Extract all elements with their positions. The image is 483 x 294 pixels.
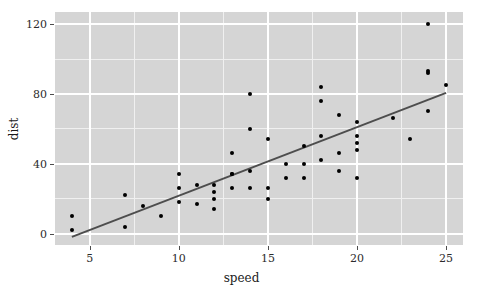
x-tick-label: 25 <box>439 252 453 265</box>
scatter-point <box>212 183 216 187</box>
scatter-point <box>319 85 323 89</box>
x-tick-label: 10 <box>172 252 186 265</box>
scatter-point <box>302 176 306 180</box>
scatter-point <box>177 172 181 176</box>
scatter-point <box>355 134 359 138</box>
plot-panel <box>55 12 463 245</box>
scatter-point <box>337 169 341 173</box>
gridline-horizontal-minor <box>55 198 463 199</box>
gridline-vertical-major <box>89 12 91 245</box>
scatter-point <box>266 186 270 190</box>
scatter-point <box>355 141 359 145</box>
scatter-point <box>123 225 127 229</box>
y-tick-label: 120 <box>26 18 47 31</box>
gridline-horizontal-major <box>55 93 463 95</box>
x-tick-label: 20 <box>350 252 364 265</box>
scatter-point <box>212 207 216 211</box>
scatter-point <box>177 186 181 190</box>
scatter-point <box>212 197 216 201</box>
x-tick-mark <box>90 246 91 250</box>
gridline-horizontal-minor <box>55 59 463 60</box>
x-tick-label: 15 <box>261 252 275 265</box>
scatter-point <box>266 137 270 141</box>
scatter-point <box>266 197 270 201</box>
scatter-point <box>177 200 181 204</box>
scatter-point <box>426 69 430 73</box>
scatter-point <box>426 109 430 113</box>
chart-figure: 510152025 04080120 speed dist <box>0 0 483 294</box>
scatter-point <box>230 151 234 155</box>
scatter-point <box>319 134 323 138</box>
scatter-point <box>426 22 430 26</box>
scatter-point <box>319 158 323 162</box>
scatter-point <box>408 137 412 141</box>
scatter-point <box>195 183 199 187</box>
scatter-point <box>230 186 234 190</box>
scatter-point <box>195 202 199 206</box>
scatter-point <box>70 228 74 232</box>
scatter-point <box>337 151 341 155</box>
scatter-point <box>355 120 359 124</box>
gridline-horizontal-major <box>55 23 463 25</box>
y-tick-mark <box>50 24 54 25</box>
gridline-horizontal-minor <box>55 128 463 129</box>
y-tick-label: 80 <box>33 88 47 101</box>
scatter-point <box>123 193 127 197</box>
y-tick-label: 40 <box>33 157 47 170</box>
y-tick-mark <box>50 94 54 95</box>
x-axis-title: speed <box>0 271 483 285</box>
scatter-point <box>141 204 145 208</box>
scatter-point <box>337 113 341 117</box>
gridline-vertical-major <box>267 12 269 245</box>
scatter-point <box>444 83 448 87</box>
scatter-point <box>284 162 288 166</box>
x-tick-mark <box>268 246 269 250</box>
scatter-point <box>159 214 163 218</box>
y-axis-title: dist <box>7 117 21 140</box>
scatter-point <box>70 214 74 218</box>
scatter-point <box>284 176 288 180</box>
gridline-vertical-major <box>178 12 180 245</box>
scatter-point <box>212 190 216 194</box>
gridline-vertical-major <box>356 12 358 245</box>
scatter-point <box>302 144 306 148</box>
y-tick-mark <box>50 164 54 165</box>
y-tick-label: 0 <box>40 227 47 240</box>
scatter-point <box>355 176 359 180</box>
y-tick-mark <box>50 234 54 235</box>
scatter-point <box>230 172 234 176</box>
gridline-horizontal-major <box>55 163 463 165</box>
scatter-point <box>319 99 323 103</box>
x-tick-mark <box>357 246 358 250</box>
gridline-horizontal-major <box>55 233 463 235</box>
scatter-point <box>248 127 252 131</box>
scatter-point <box>248 92 252 96</box>
gridline-vertical-major <box>445 12 447 245</box>
scatter-point <box>302 162 306 166</box>
scatter-point <box>248 169 252 173</box>
scatter-point <box>248 186 252 190</box>
x-tick-mark <box>446 246 447 250</box>
x-tick-mark <box>179 246 180 250</box>
regression-line-segment <box>72 93 446 237</box>
scatter-point <box>391 116 395 120</box>
scatter-point <box>355 148 359 152</box>
x-tick-label: 5 <box>86 252 93 265</box>
